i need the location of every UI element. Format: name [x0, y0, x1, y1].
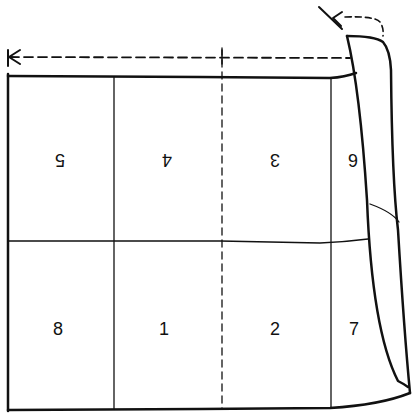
panel-label-3: 3: [265, 150, 285, 170]
panel-label-5: 5: [50, 150, 70, 170]
fold-arrow-top-line: [10, 57, 350, 58]
diagram-lines: [0, 0, 418, 416]
fold-arrow-corner-tail: [319, 7, 342, 29]
panel-label-1: 1: [154, 319, 174, 339]
panel-label-8: 8: [48, 319, 68, 339]
fold-arrow-corner-head: [333, 12, 342, 26]
panel-label-2: 2: [265, 319, 285, 339]
panel-horizontal-divider: [8, 239, 368, 243]
fold-arrow-corner-line: [345, 17, 383, 36]
panel-label-4: 4: [157, 150, 177, 170]
panel-label-7: 7: [344, 319, 364, 339]
panel-label-6: 6: [343, 150, 363, 170]
sheet-bottom-edge: [8, 393, 410, 410]
sheet-top-edge: [8, 73, 356, 78]
folding-diagram: 5 4 3 6 8 1 2 7: [0, 0, 418, 416]
